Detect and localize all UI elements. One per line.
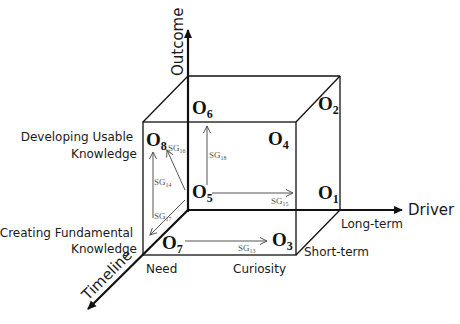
octant-o8: O8 — [146, 129, 167, 153]
label-sg16: SG16 — [168, 143, 186, 154]
driver-level-need: Need — [146, 262, 177, 276]
outcome-level-lower: Creating Fundamental Knowledge — [0, 226, 137, 256]
outcome-axis-label: Outcome — [169, 8, 187, 76]
driver-level-curiosity: Curiosity — [233, 262, 286, 276]
octant-o7: O7 — [162, 232, 183, 256]
timeline-level-long: Long-term — [341, 217, 403, 231]
timeline-level-short: Short-term — [304, 245, 369, 259]
octant-cube-diagram: Outcome Driver Timeline Developing Usabl… — [0, 0, 460, 324]
timeline-axis — [88, 209, 189, 309]
label-sg13: SG13 — [238, 243, 256, 254]
label-sg15: SG15 — [271, 196, 289, 207]
octant-o3: O3 — [272, 229, 293, 253]
octant-o5: O5 — [192, 181, 213, 205]
label-sg14: SG14 — [154, 177, 172, 188]
outcome-level-upper: Developing Usable Knowledge — [21, 130, 137, 161]
octant-o4: O4 — [268, 128, 289, 152]
driver-axis-label: Driver — [408, 201, 455, 219]
label-sg18: SG18 — [209, 150, 227, 161]
label-sg17: SG17 — [154, 211, 172, 222]
cube-wireframe — [143, 76, 340, 255]
octant-o6: O6 — [192, 97, 213, 121]
octant-o1: O1 — [318, 182, 339, 206]
octant-o2: O2 — [318, 93, 339, 117]
